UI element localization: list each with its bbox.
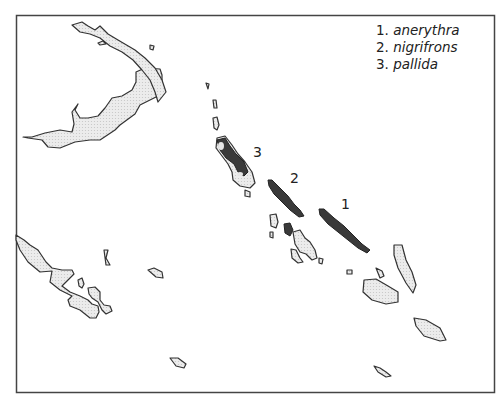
- legend-number: 1.: [376, 22, 389, 38]
- island-small: [150, 45, 154, 50]
- island-small: [270, 214, 278, 228]
- island-small: [347, 270, 352, 274]
- island-small: [270, 232, 273, 238]
- map-label-2: 2: [290, 170, 299, 186]
- map-label-1: 1: [341, 196, 350, 212]
- legend-number: 3.: [376, 56, 389, 72]
- legend-number: 2.: [376, 39, 389, 55]
- island-small: [78, 278, 84, 288]
- legend: 1. anerythra 2. nigrifrons 3. pallida: [376, 22, 460, 73]
- island-small: [213, 100, 217, 108]
- map-label-3: 3: [253, 144, 262, 160]
- legend-item-pallida: 3. pallida: [376, 56, 460, 73]
- legend-species: nigrifrons: [393, 39, 457, 55]
- island-buka: [213, 117, 219, 130]
- legend-species: anerythra: [393, 22, 459, 38]
- legend-species: pallida: [393, 56, 438, 72]
- legend-item-nigrifrons: 2. nigrifrons: [376, 39, 460, 56]
- legend-item-anerythra: 1. anerythra: [376, 22, 460, 39]
- island-small: [319, 258, 323, 264]
